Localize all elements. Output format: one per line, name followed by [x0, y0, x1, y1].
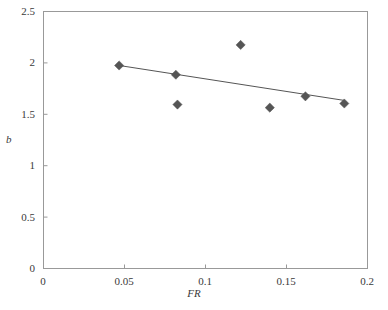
data-point [173, 100, 182, 109]
y-tick-label: 2 [0, 57, 35, 68]
y-tick-label: 2.5 [0, 6, 35, 17]
x-axis-title: FR [187, 288, 200, 299]
data-point-markers [115, 40, 349, 112]
y-tick-label: 1.5 [0, 108, 35, 119]
data-point [265, 103, 274, 112]
x-tick-label: 0 [40, 276, 46, 287]
trendline [119, 65, 344, 100]
y-tick-label: 0.5 [0, 211, 35, 222]
plot-canvas [0, 0, 388, 310]
data-point [301, 92, 310, 101]
tick-marks [44, 12, 368, 269]
x-tick-label: 0.15 [276, 276, 295, 287]
scatter-chart: 00.511.522.5 00.050.10.150.2 b FR [0, 0, 388, 310]
y-axis-title: b [6, 134, 12, 145]
y-tick-label: 0 [0, 263, 35, 274]
data-point [115, 61, 124, 70]
x-tick-label: 0.05 [114, 276, 133, 287]
x-tick-label: 0.1 [198, 276, 212, 287]
y-tick-label: 1 [0, 160, 35, 171]
x-tick-label: 0.2 [360, 276, 374, 287]
data-point [171, 70, 180, 79]
axis-frame [44, 12, 368, 269]
data-point [236, 40, 245, 49]
